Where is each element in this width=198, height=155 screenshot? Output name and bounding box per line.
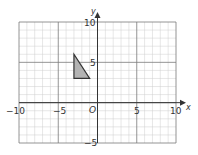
y-tick-label: 10 (84, 18, 96, 28)
y-axis-label: y (90, 7, 96, 16)
x-tick-label: −5 (53, 106, 66, 116)
y-tick-label: 5 (90, 58, 96, 68)
x-tick-label: 10 (170, 106, 182, 116)
origin-label: O (89, 105, 96, 115)
x-axis-label: x (185, 103, 191, 112)
axes (19, 12, 186, 143)
coordinate-grid-chart: −10 −5 O 5 10 10 5 −5 y x (0, 0, 198, 155)
y-tick-label: −5 (84, 138, 97, 148)
x-tick-label: 5 (134, 106, 140, 116)
x-tick-label: −10 (6, 106, 25, 116)
